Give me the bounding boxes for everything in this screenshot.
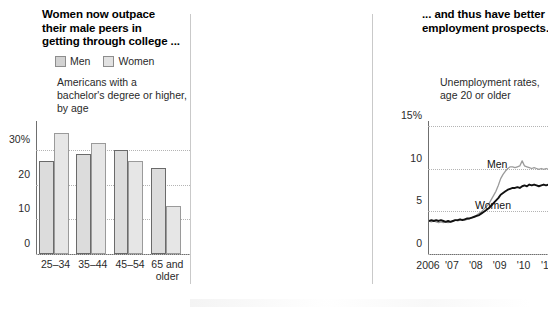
y-tick-label: 30% [9,133,30,145]
infographic-board: Women now outpace their male peers in ge… [0,0,548,309]
chart-bachelors-by-age: 0 10 20 30% 25–3435–4445–5465 and older [36,127,186,255]
bar-group: 25–34 [39,127,72,254]
chart-subtitle: Americans with a bachelor's degree or hi… [57,76,187,115]
bar-men [114,150,129,254]
bar-men [76,154,91,254]
bar-men [39,161,54,254]
bar-women [128,161,143,254]
legend-swatch-men-icon [55,56,66,67]
panel-college-attainment: Women now outpace their male peers in ge… [0,0,190,309]
y-tick-label: 0 [24,237,30,249]
bar-women [166,206,181,254]
scan-artifact [190,299,530,307]
legend-label-women: Women [118,55,154,67]
y-tick-label: 20 [18,168,30,180]
bar-group: 45–54 [114,127,147,254]
bar-men [151,168,166,254]
panel-never-married: The percentage of those of both sexes wh… [372,0,548,309]
x-tick-label: 65 and older [151,258,184,282]
bar-women [91,143,106,254]
bar-group: 35–44 [76,127,109,254]
y-tick-label: 10 [18,202,30,214]
chart-legend: Men Women [55,55,154,67]
x-tick-label: 25–34 [39,258,72,270]
legend-item-women: Women [103,55,154,67]
panel-unemployment: ... and thus have better employment pros… [190,0,372,309]
legend-item-men: Men [55,55,90,67]
bar-group: 65 and older [151,127,184,254]
x-tick-label: 35–44 [76,258,109,270]
bar-group-container: 25–3435–4445–5465 and older [37,127,186,254]
x-tick-label: 45–54 [114,258,147,270]
panel-headline: Women now outpace their male peers in ge… [42,8,182,49]
legend-label-men: Men [70,55,90,67]
gridline [36,254,190,255]
legend-swatch-women-icon [103,56,114,67]
bar-women [54,133,69,254]
